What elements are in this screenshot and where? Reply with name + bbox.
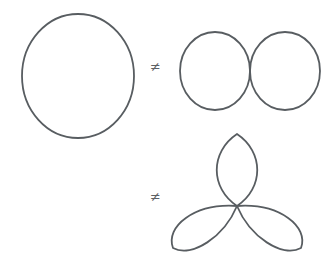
rose-petal-lower-left-outline [172, 206, 237, 251]
not-equal-icon-top: ≠ [150, 60, 161, 73]
not-equal-icon-bottom: ≠ [150, 190, 161, 203]
figure-canvas [0, 0, 336, 272]
shape-three-petal-rose [172, 134, 303, 251]
tangent-circle-left-outline [180, 32, 250, 110]
single-circle-outline [22, 14, 134, 138]
figure-root: ≠ ≠ [0, 0, 336, 272]
shape-single-circle [22, 14, 134, 138]
shape-two-tangent-circles [180, 32, 320, 110]
rose-petal-top-outline [217, 134, 258, 206]
tangent-circle-right-outline [250, 32, 320, 110]
rose-petal-lower-right-outline [237, 206, 302, 251]
